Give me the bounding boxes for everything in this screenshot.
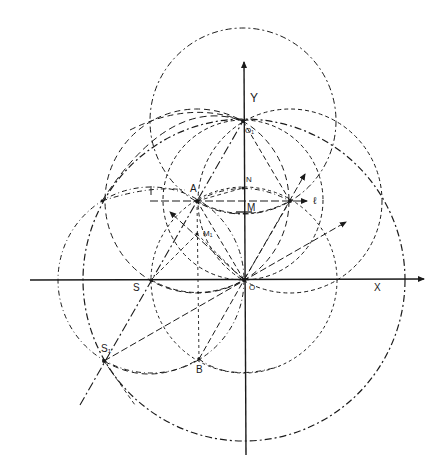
label-l: ℓ (313, 196, 316, 206)
lens-arc-upper-AP (197, 189, 290, 202)
lens-arc-lower-SO (151, 280, 244, 293)
point-O1 (241, 119, 245, 123)
label-O1: O₁ (245, 127, 254, 135)
line-M1-O (197, 234, 244, 280)
point-S1 (102, 359, 106, 363)
point-B (197, 357, 201, 361)
line-S1-O-arrow (104, 222, 346, 361)
line-A-N (197, 188, 243, 201)
x-axis (30, 279, 424, 280)
point-P (288, 199, 292, 203)
label-X: X (374, 283, 381, 293)
point-O (242, 278, 246, 282)
line-M1-arrow (170, 212, 244, 280)
label-N: N (246, 176, 252, 184)
label-B: B (196, 365, 203, 375)
arc-B-bottom (199, 359, 280, 373)
label-M1: M₁ (203, 230, 212, 238)
label-S: S (133, 283, 140, 293)
point-M1 (195, 232, 198, 235)
label-A: A (190, 184, 197, 194)
arc-upper-left-2 (130, 112, 243, 130)
point-A (195, 199, 199, 203)
label-O: O (249, 284, 255, 292)
label-M: M (247, 203, 255, 213)
arc-S1-B (104, 359, 199, 374)
geometric-construction-diagram (0, 0, 448, 471)
point-upper-left-intersection (101, 200, 104, 203)
label-Y: Y (250, 92, 258, 104)
circle-diameter-OO1 (163, 120, 323, 280)
label-S1: S₁ (101, 344, 111, 354)
point-S (149, 278, 153, 282)
point-N (242, 187, 245, 190)
